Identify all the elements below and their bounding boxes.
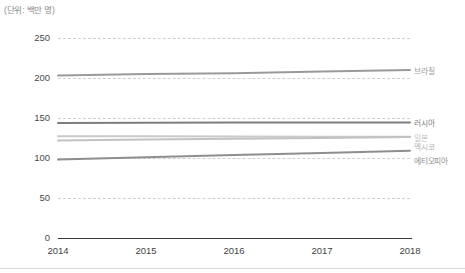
- series-line-브라질: [58, 70, 410, 76]
- x-tick-2017: 2017: [287, 245, 357, 256]
- y-tick-250: 250: [4, 32, 50, 43]
- series-line-에티오피아: [58, 151, 410, 160]
- bottom-divider: [0, 268, 465, 269]
- y-tick-50: 50: [4, 192, 50, 203]
- series-label-러시아: 러시아: [414, 117, 434, 128]
- unit-label: (단위: 백만 명): [4, 3, 55, 15]
- series-line-멕시코: [58, 137, 410, 140]
- series-line-러시아: [58, 122, 410, 123]
- series-lines: [58, 38, 410, 238]
- x-axis-baseline: [58, 238, 412, 239]
- x-tick-2016: 2016: [199, 245, 269, 256]
- y-tick-0: 0: [4, 232, 50, 243]
- series-label-브라질: 브라질: [414, 65, 434, 76]
- series-label-멕시코: 멕시코: [414, 141, 434, 152]
- x-tick-2014: 2014: [23, 245, 93, 256]
- y-axis-tick-labels: 050100150200250: [0, 38, 50, 238]
- series-label-에티오피아: 에티오피아: [414, 154, 448, 165]
- x-tick-2015: 2015: [111, 245, 181, 256]
- y-tick-200: 200: [4, 72, 50, 83]
- y-tick-100: 100: [4, 152, 50, 163]
- line-chart-population: (단위: 백만 명) 050100150200250 2014201520162…: [0, 0, 465, 273]
- y-tick-150: 150: [4, 112, 50, 123]
- plot-area: [58, 38, 410, 238]
- x-tick-2018: 2018: [375, 245, 445, 256]
